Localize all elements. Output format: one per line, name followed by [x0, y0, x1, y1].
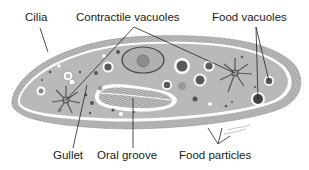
label-food-vacuoles: Food vacuoles [212, 12, 287, 24]
macronucleus [122, 47, 164, 73]
label-oral-groove: Oral groove [97, 150, 157, 162]
food-particle-wisps [224, 125, 250, 134]
label-food-particles: Food particles [179, 150, 251, 162]
label-cilia: Cilia [25, 12, 47, 24]
paramecium-diagram [0, 0, 309, 170]
label-gullet: Gullet [53, 150, 83, 162]
label-contractile-vacuoles: Contractile vacuoles [76, 12, 180, 24]
